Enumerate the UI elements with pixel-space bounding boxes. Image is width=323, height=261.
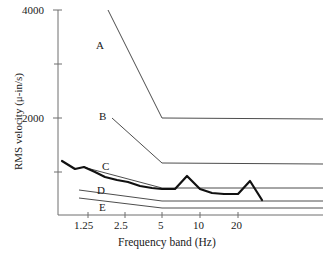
curve-label-c: C — [102, 160, 109, 172]
x-tick-label-10: 10 — [193, 219, 204, 231]
curve-c-line — [83, 167, 323, 188]
y-axis-title: RMS velocity (μ-in/s) — [12, 73, 24, 170]
curve-label-a: A — [96, 39, 104, 51]
x-tick-label-20: 20 — [231, 219, 242, 231]
curve-label-d: D — [97, 184, 105, 196]
y-tick-label-2000: 2000 — [22, 112, 44, 124]
curve-e-line — [79, 198, 323, 208]
x-axis-title: Frequency band (Hz) — [118, 236, 216, 248]
x-tick-label-1-25: 1.25 — [74, 219, 93, 231]
vibration-criteria-chart: 4000 2000 1.25 2.5 5 10 20 RMS velocity … — [0, 0, 323, 261]
curve-label-e: E — [99, 201, 106, 213]
measured-response-curve — [62, 161, 262, 200]
x-tick-label-5: 5 — [158, 219, 164, 231]
x-tick-label-2-5: 2.5 — [114, 219, 128, 231]
curve-label-b: B — [99, 110, 106, 122]
curve-d-line — [79, 190, 323, 201]
curve-b-line — [112, 118, 323, 164]
y-tick-label-4000: 4000 — [22, 4, 44, 16]
curve-a-line — [108, 10, 323, 119]
